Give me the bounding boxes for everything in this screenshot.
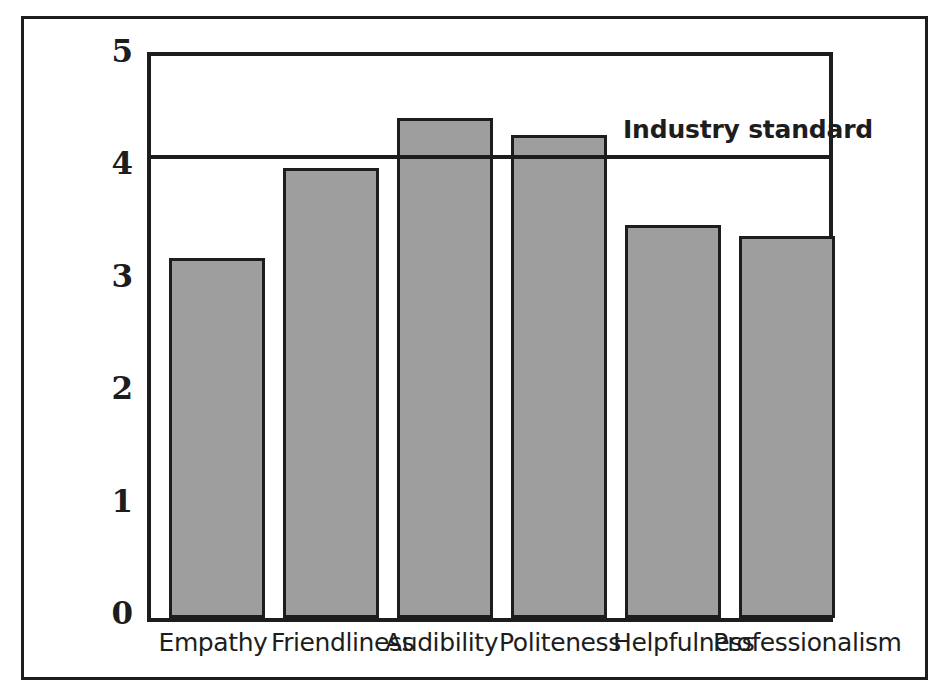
y-tick-label: 4 [73,148,133,179]
x-tick-label-audibility: Audibility [385,628,497,657]
x-axis: Empathy Friendliness Audibility Politene… [147,628,833,672]
bar-professionalism[interactable] [739,236,835,618]
y-tick-label: 3 [73,261,133,292]
plot-area: Industry standard [147,52,833,622]
y-axis: 5 4 3 2 1 0 [47,52,133,622]
x-tick-label-friendliness: Friendliness [271,628,383,657]
bar-politeness[interactable] [511,135,607,618]
y-tick-label: 0 [73,598,133,629]
x-tick-label-professionalism: Professionalism [713,628,873,657]
bar-helpfulness[interactable] [625,225,721,618]
industry-standard-line [151,155,829,159]
bar-slot [511,56,607,618]
x-tick-label-politeness: Politeness [499,628,611,657]
bar-slot [283,56,379,618]
bar-friendliness[interactable] [283,168,379,618]
x-tick-label-helpfulness: Helpfulness [613,628,725,657]
bar-chart-figure: 5 4 3 2 1 0 In [0,0,945,696]
y-tick-label: 5 [73,36,133,67]
bar-slot [169,56,265,618]
bar-audibility[interactable] [397,118,493,618]
bar-empathy[interactable] [169,258,265,618]
y-tick-label: 1 [73,486,133,517]
x-tick-label-empathy: Empathy [157,628,269,657]
industry-standard-label: Industry standard [623,115,873,144]
bar-slot [397,56,493,618]
y-tick-label: 2 [73,373,133,404]
